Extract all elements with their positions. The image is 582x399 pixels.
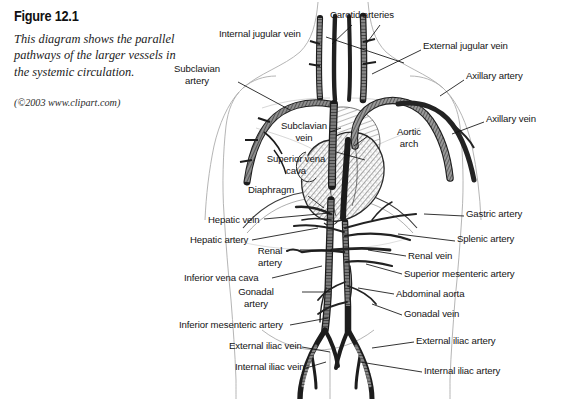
label-superior-vena-cava: Superior vena cava xyxy=(262,153,330,176)
label-external-iliac-vein: External iliac vein xyxy=(229,340,302,352)
label-superior-mesenteric-artery: Superior mesenteric artery xyxy=(404,268,514,280)
label-axillary-artery: Axillary artery xyxy=(466,70,523,82)
label-external-jugular-vein: External jugular vein xyxy=(423,40,508,52)
label-gonadal-vein: Gonadal vein xyxy=(404,308,459,320)
label-axillary-vein: Axillary vein xyxy=(486,113,536,125)
label-inferior-vena-cava: Inferior vena cava xyxy=(184,272,258,284)
carotid-arteries-vessel xyxy=(309,16,376,100)
label-renal-vein: Renal vein xyxy=(408,250,452,262)
label-renal-artery: Renal artery xyxy=(247,245,293,268)
label-carotid-arteries: Carotid arteries xyxy=(330,9,394,21)
label-hepatic-artery: Hepatic artery xyxy=(190,234,248,246)
abdominal-branches xyxy=(287,202,416,322)
figure-number: Figure 12.1 xyxy=(14,8,169,24)
label-gastric-artery: Gastric artery xyxy=(466,208,522,220)
label-hepatic-vein: Hepatic vein xyxy=(208,214,260,226)
iliac-vessels xyxy=(300,330,372,399)
figure-credit-text: (©2003 www.clipart.com) xyxy=(14,97,190,108)
label-internal-iliac-artery: Internal iliac artery xyxy=(424,365,500,377)
superior-vena-cava-vessel xyxy=(332,104,334,186)
label-gonadal-artery: Gonadal artery xyxy=(231,286,281,309)
label-inferior-mesenteric-artery: Inferior mesenteric artery xyxy=(179,319,283,331)
label-external-iliac-artery: External iliac artery xyxy=(416,335,495,347)
label-abdominal-aorta: Abdominal aorta xyxy=(396,288,464,300)
label-aortic-arch: Aortic arch xyxy=(387,126,431,149)
label-internal-iliac-vein: Internal iliac vein xyxy=(235,361,305,373)
label-internal-jugular-vein: Internal jugular vein xyxy=(219,28,301,40)
figure-caption-block: Figure 12.1 This diagram shows the paral… xyxy=(14,8,190,108)
figure-caption-text: This diagram shows the parallel pathways… xyxy=(14,31,178,80)
label-diaphragm: Diaphragm xyxy=(248,184,294,196)
label-subclavian-vein: Subclavian vein xyxy=(272,120,336,143)
abdominal-aorta-vessel xyxy=(345,222,348,332)
label-splenic-artery: Splenic artery xyxy=(457,233,514,245)
